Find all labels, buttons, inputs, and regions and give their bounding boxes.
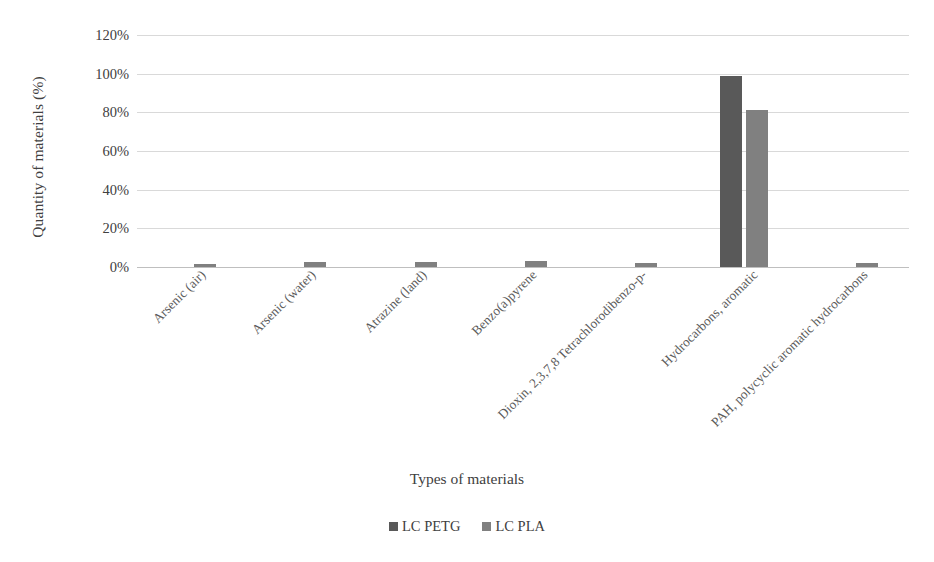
- y-axis-title: Quantity of materials (%): [29, 42, 47, 272]
- x-axis-category-labels: Arsenic (air)Arsenic (water)Atrazine (la…: [137, 267, 909, 467]
- bar-group: [468, 35, 578, 267]
- x-category-label: Arsenic (air): [150, 267, 210, 327]
- legend-swatch-icon: [389, 522, 398, 531]
- bar-group: [358, 35, 468, 267]
- bar: [746, 110, 768, 267]
- bar-group: [247, 35, 357, 267]
- y-tick-label: 120%: [95, 27, 129, 44]
- plot-area: 0%20%40%60%80%100%120%: [137, 35, 909, 267]
- legend-label: LC PLA: [495, 518, 545, 535]
- y-tick-label: 40%: [102, 181, 129, 198]
- y-tick-label: 60%: [102, 143, 129, 160]
- x-axis-title: Types of materials: [0, 470, 934, 488]
- x-category-label: Arsenic (water): [249, 267, 320, 338]
- x-category-label: Hydrocarbons, aromatic: [658, 267, 761, 370]
- legend-label: LC PETG: [402, 518, 460, 535]
- bar-group: [578, 35, 688, 267]
- bar-group: [137, 35, 247, 267]
- y-tick-label: 80%: [102, 104, 129, 121]
- y-tick-label: 0%: [110, 259, 129, 276]
- legend-item[interactable]: LC PLA: [482, 518, 545, 535]
- bar: [720, 76, 742, 267]
- legend-swatch-icon: [482, 522, 491, 531]
- chart-legend: LC PETGLC PLA: [0, 518, 934, 535]
- bar-group: [688, 35, 798, 267]
- bar-chart: Quantity of materials (%) 0%20%40%60%80%…: [0, 0, 934, 562]
- y-tick-label: 100%: [95, 65, 129, 82]
- x-category-label: Atrazine (land): [361, 267, 430, 336]
- y-tick-label: 20%: [102, 220, 129, 237]
- bars-layer: [137, 35, 909, 267]
- legend-item[interactable]: LC PETG: [389, 518, 460, 535]
- bar-group: [799, 35, 909, 267]
- x-category-label: Benzo(a)pyrene: [468, 267, 540, 339]
